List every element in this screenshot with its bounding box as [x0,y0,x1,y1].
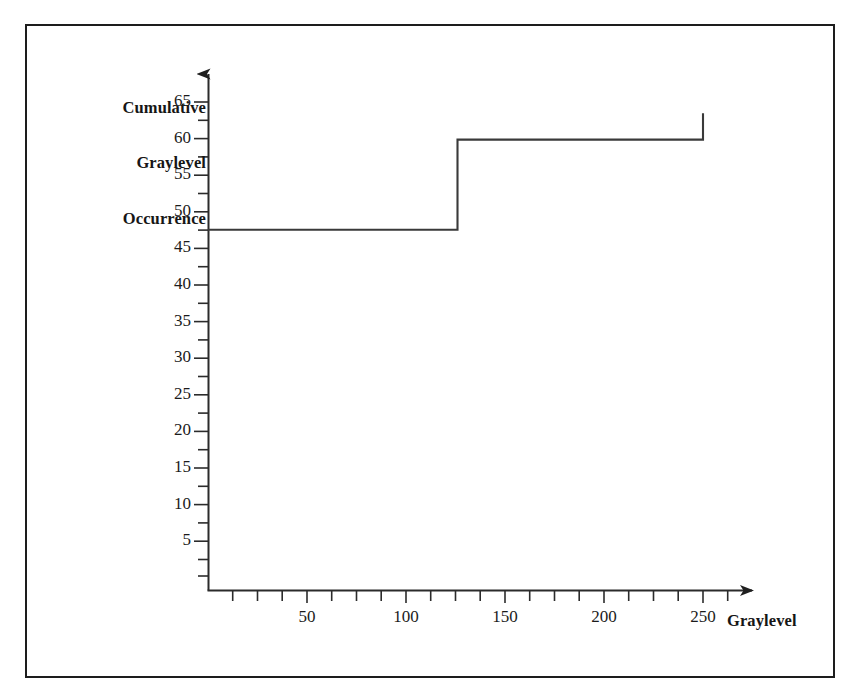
y-tick-label-5: 5 [157,530,191,550]
cumulative-step-curve [208,113,703,230]
x-tick-label-200: 200 [581,607,627,627]
caption-ghost [28,684,448,694]
y-tick-label-65: 65 [157,91,191,111]
y-tick-label-50: 50 [157,201,191,221]
y-tick-label-30: 30 [157,347,191,367]
figure-root: Cumulative Graylevel Occurrence Grayleve… [0,0,855,696]
y-tick-label-10: 10 [157,494,191,514]
x-tick-label-50: 50 [284,607,330,627]
y-tick-label-60: 60 [157,128,191,148]
y-tick-label-45: 45 [157,237,191,257]
x-tick-label-150: 150 [482,607,528,627]
y-tick-label-55: 55 [157,164,191,184]
y-tick-label-20: 20 [157,420,191,440]
x-axis-ticks [233,590,728,603]
x-tick-label-250: 250 [680,607,726,627]
y-tick-label-15: 15 [157,457,191,477]
y-tick-label-40: 40 [157,274,191,294]
x-tick-label-100: 100 [383,607,429,627]
y-tick-label-35: 35 [157,311,191,331]
y-tick-label-25: 25 [157,384,191,404]
axes-group [208,74,753,591]
x-axis-title: Graylevel [727,612,797,630]
